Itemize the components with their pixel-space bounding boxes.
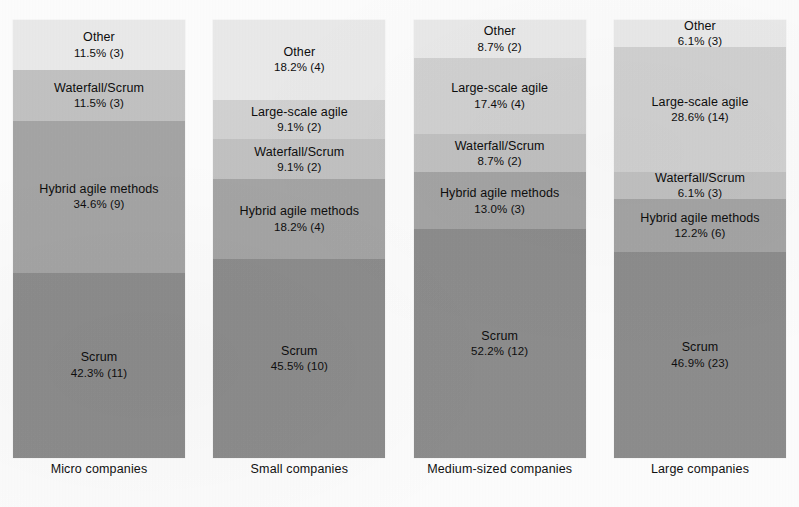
segment-label: Large-scale agile (451, 80, 548, 97)
segment-label: Hybrid agile methods (240, 203, 359, 220)
segment-label: Hybrid agile methods (640, 210, 759, 227)
segment-label: Scrum (81, 349, 118, 366)
x-axis-label: Small companies (213, 462, 385, 486)
segment-value: 45.5% (10) (271, 359, 328, 374)
x-axis-label: Medium-sized companies (414, 462, 586, 486)
bar-column: Other6.1% (3)Large-scale agile28.6% (14)… (614, 20, 786, 458)
segment-value: 9.1% (2) (277, 160, 321, 175)
bar-segment[interactable]: Waterfall/Scrum8.7% (2) (414, 134, 586, 172)
segment-label: Other (83, 29, 115, 46)
bar-segment[interactable]: Scrum42.3% (11) (13, 273, 185, 458)
segment-label: Scrum (481, 328, 518, 345)
segment-label: Waterfall/Scrum (455, 138, 545, 155)
bar-segment[interactable]: Hybrid agile methods34.6% (9) (13, 121, 185, 273)
x-axis-label: Micro companies (13, 462, 185, 486)
stacked-bar-chart: Other11.5% (3)Waterfall/Scrum11.5% (3)Hy… (0, 0, 799, 507)
segment-value: 11.5% (3) (74, 96, 124, 111)
stacked-bar: Other18.2% (4)Large-scale agile9.1% (2)W… (213, 20, 385, 458)
segment-value: 6.1% (3) (678, 34, 722, 47)
bar-segment[interactable]: Large-scale agile17.4% (4) (414, 58, 586, 134)
stacked-bar: Other11.5% (3)Waterfall/Scrum11.5% (3)Hy… (13, 20, 185, 458)
segment-value: 17.4% (4) (474, 97, 525, 112)
segment-value: 13.0% (3) (474, 202, 525, 217)
segment-value: 11.5% (3) (74, 46, 124, 61)
bar-column: Other8.7% (2)Large-scale agile17.4% (4)W… (414, 20, 586, 458)
bar-segment[interactable]: Other6.1% (3) (614, 20, 786, 47)
bar-segment[interactable]: Large-scale agile9.1% (2) (213, 100, 385, 140)
segment-value: 9.1% (2) (277, 120, 321, 135)
stacked-bar: Other8.7% (2)Large-scale agile17.4% (4)W… (414, 20, 586, 458)
bar-segment[interactable]: Hybrid agile methods18.2% (4) (213, 179, 385, 259)
segment-value: 12.2% (6) (675, 226, 726, 241)
bar-column: Other11.5% (3)Waterfall/Scrum11.5% (3)Hy… (13, 20, 185, 458)
segment-value: 18.2% (4) (274, 60, 325, 75)
bar-segment[interactable]: Waterfall/Scrum9.1% (2) (213, 139, 385, 179)
bar-segment[interactable]: Scrum52.2% (12) (414, 229, 586, 458)
segment-value: 34.6% (9) (74, 197, 125, 212)
segment-label: Scrum (281, 343, 318, 360)
plot-area: Other11.5% (3)Waterfall/Scrum11.5% (3)Hy… (13, 20, 786, 458)
x-axis-labels: Micro companiesSmall companiesMedium-siz… (13, 462, 786, 486)
segment-value: 52.2% (12) (471, 344, 528, 359)
bar-segment[interactable]: Scrum46.9% (23) (614, 252, 786, 458)
segment-label: Large-scale agile (652, 94, 749, 111)
segment-value: 18.2% (4) (274, 220, 325, 235)
bar-segment[interactable]: Scrum45.5% (10) (213, 259, 385, 458)
bar-segment[interactable]: Waterfall/Scrum6.1% (3) (614, 172, 786, 199)
segment-label: Hybrid agile methods (39, 181, 158, 198)
segment-value: 6.1% (3) (678, 186, 722, 199)
segment-value: 8.7% (2) (478, 154, 522, 169)
bar-segment[interactable]: Other8.7% (2) (414, 20, 586, 58)
bar-segment[interactable]: Waterfall/Scrum11.5% (3) (13, 70, 185, 120)
segment-label: Hybrid agile methods (440, 185, 559, 202)
segment-value: 42.3% (11) (71, 366, 127, 381)
bar-segment[interactable]: Hybrid agile methods12.2% (6) (614, 199, 786, 252)
segment-label: Other (484, 23, 516, 40)
segment-label: Other (283, 44, 315, 61)
segment-value: 8.7% (2) (478, 40, 522, 55)
bar-segment[interactable]: Large-scale agile28.6% (14) (614, 47, 786, 172)
segment-label: Waterfall/Scrum (655, 172, 745, 186)
stacked-bar: Other6.1% (3)Large-scale agile28.6% (14)… (614, 20, 786, 458)
segment-label: Waterfall/Scrum (254, 144, 344, 161)
segment-label: Large-scale agile (251, 104, 348, 121)
bar-segment[interactable]: Hybrid agile methods13.0% (3) (414, 172, 586, 229)
segment-label: Other (684, 20, 716, 34)
bar-segment[interactable]: Other11.5% (3) (13, 20, 185, 70)
segment-label: Waterfall/Scrum (54, 80, 144, 97)
segment-value: 46.9% (23) (671, 356, 728, 371)
x-axis-label: Large companies (614, 462, 786, 486)
bar-segment[interactable]: Other18.2% (4) (213, 20, 385, 100)
segment-label: Scrum (682, 339, 719, 356)
bar-column: Other18.2% (4)Large-scale agile9.1% (2)W… (213, 20, 385, 458)
segment-value: 28.6% (14) (671, 110, 728, 125)
